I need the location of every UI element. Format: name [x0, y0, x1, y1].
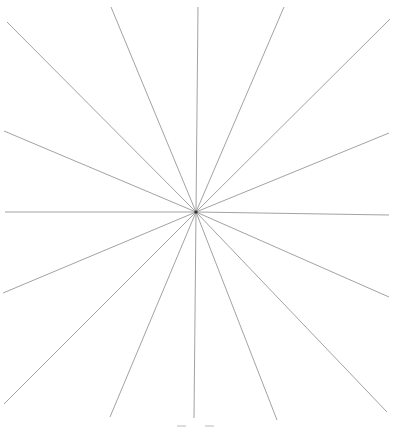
- ray-line-7: [196, 212, 389, 215]
- ray-line-11: [194, 212, 196, 418]
- ray-line-5: [196, 19, 390, 212]
- center-point: [194, 210, 197, 213]
- radial-diagram: [0, 0, 399, 427]
- ray-line-3: [196, 7, 198, 212]
- ray-line-9: [196, 212, 387, 412]
- ray-line-10: [196, 212, 277, 420]
- ray-line-1: [7, 22, 196, 212]
- ray-line-8: [196, 212, 389, 297]
- ray-line-13: [4, 212, 196, 404]
